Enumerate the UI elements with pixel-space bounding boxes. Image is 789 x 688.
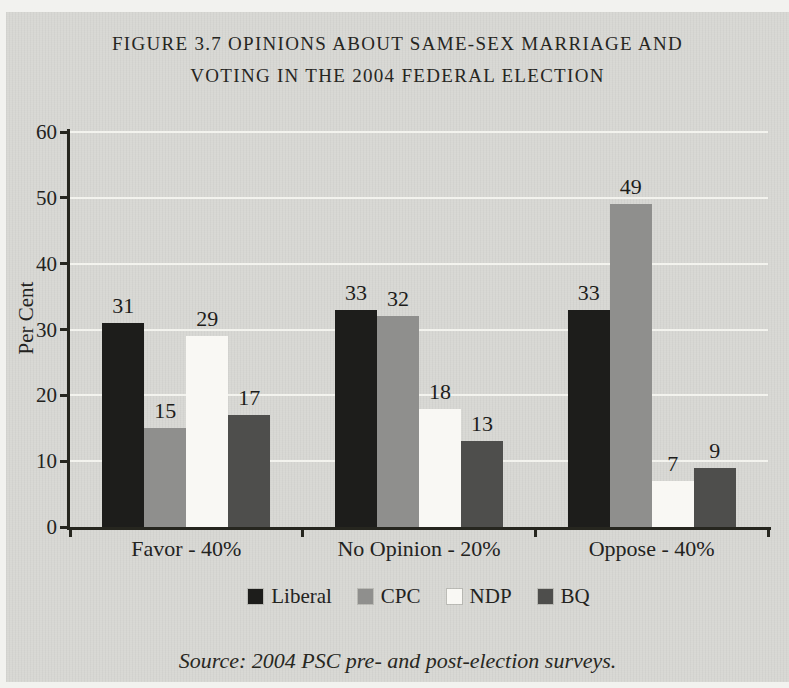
y-axis-tick [60, 262, 67, 265]
bar-cpc [610, 204, 652, 527]
plot-area: 3115291733321813334979 [70, 132, 768, 527]
bar-value-label: 49 [620, 175, 642, 199]
y-axis-tick-label: 50 [11, 185, 57, 211]
y-axis-tick [60, 460, 67, 463]
bar-slot: 33 [335, 132, 377, 527]
legend-label-cpc: CPC [381, 584, 421, 609]
bar-value-label: 15 [154, 399, 176, 423]
category-label: Oppose - 40% [535, 536, 768, 562]
bar-slot: 31 [102, 132, 144, 527]
bar-group: 334979 [535, 132, 768, 527]
legend-item-cpc: CPC [358, 584, 421, 609]
legend-swatch-liberal [248, 589, 263, 604]
x-axis-tick [69, 530, 72, 537]
y-axis-tick-label: 30 [11, 317, 57, 343]
bar-slot: 18 [419, 132, 461, 527]
bar-liberal [102, 323, 144, 527]
figure-title-line1: FIGURE 3.7 OPINIONS ABOUT SAME-SEX MARRI… [6, 28, 789, 60]
y-axis-tick [60, 196, 67, 199]
bar-slot: 49 [610, 132, 652, 527]
bar-slot: 32 [377, 132, 419, 527]
y-axis-tick-label: 60 [11, 119, 57, 145]
bar-ndp [652, 481, 694, 527]
page-background: { "figure": { "title_lines": [ "FIGURE 3… [0, 0, 789, 688]
legend-label-bq: BQ [561, 584, 590, 609]
legend-swatch-bq [538, 589, 553, 604]
bar-bq [461, 441, 503, 527]
bar-value-label: 7 [667, 452, 678, 476]
y-axis-tick-label: 10 [11, 448, 57, 474]
x-axis-tick [534, 530, 537, 537]
category-label: No Opinion - 20% [303, 536, 536, 562]
legend-item-ndp: NDP [447, 584, 512, 609]
bar-slot: 7 [652, 132, 694, 527]
bar-group: 31152917 [70, 132, 303, 527]
figure-panel: FIGURE 3.7 OPINIONS ABOUT SAME-SEX MARRI… [6, 12, 789, 682]
y-axis-tick [60, 394, 67, 397]
legend-item-bq: BQ [538, 584, 590, 609]
legend-swatch-cpc [358, 589, 373, 604]
bar-bq [694, 468, 736, 527]
bar-value-label: 18 [429, 380, 451, 404]
y-axis-line [67, 129, 70, 530]
bar-value-label: 13 [471, 412, 493, 436]
bar-value-label: 29 [196, 307, 218, 331]
bar-slot: 29 [186, 132, 228, 527]
bar-value-label: 17 [238, 386, 260, 410]
bar-slot: 9 [694, 132, 736, 527]
bar-slot: 33 [568, 132, 610, 527]
legend-label-liberal: Liberal [271, 584, 332, 609]
x-axis-tick [301, 530, 304, 537]
bar-liberal [335, 310, 377, 527]
legend: Liberal CPC NDP BQ [70, 584, 768, 609]
y-axis-tick [60, 131, 67, 134]
legend-item-liberal: Liberal [248, 584, 332, 609]
bar-liberal [568, 310, 610, 527]
bar-ndp [419, 409, 461, 528]
bar-value-label: 33 [578, 281, 600, 305]
bar-value-label: 33 [345, 281, 367, 305]
y-axis-tick-label: 20 [11, 382, 57, 408]
y-axis-tick-label: 40 [11, 251, 57, 277]
bar-chart: Per Cent 3115291733321813334979 Favor - … [70, 132, 768, 527]
x-axis-line [67, 527, 771, 530]
bar-value-label: 31 [112, 294, 134, 318]
bar-slot: 17 [228, 132, 270, 527]
figure-title: FIGURE 3.7 OPINIONS ABOUT SAME-SEX MARRI… [6, 28, 789, 92]
x-axis-tick [767, 530, 770, 537]
bar-value-label: 9 [709, 439, 720, 463]
y-axis-tick [60, 328, 67, 331]
legend-label-ndp: NDP [470, 584, 512, 609]
source-note: Source: 2004 PSC pre- and post-election … [6, 648, 789, 674]
bar-bq [228, 415, 270, 527]
bar-cpc [377, 316, 419, 527]
category-label: Favor - 40% [70, 536, 303, 562]
bar-cpc [144, 428, 186, 527]
bar-ndp [186, 336, 228, 527]
bar-value-label: 32 [387, 287, 409, 311]
bar-slot: 15 [144, 132, 186, 527]
figure-title-line2: VOTING IN THE 2004 FEDERAL ELECTION [6, 60, 789, 92]
bar-group: 33321813 [303, 132, 536, 527]
legend-swatch-ndp [447, 589, 462, 604]
y-axis-tick-label: 0 [11, 514, 57, 540]
y-axis-tick [60, 526, 67, 529]
category-axis-labels: Favor - 40%No Opinion - 20%Oppose - 40% [70, 536, 768, 562]
bar-slot: 13 [461, 132, 503, 527]
